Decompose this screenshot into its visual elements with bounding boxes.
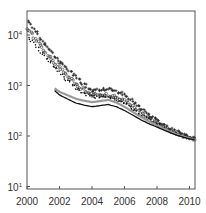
data-point <box>38 47 40 49</box>
data-point <box>159 124 161 126</box>
data-point <box>38 50 40 52</box>
data-point <box>126 103 128 105</box>
data-point <box>50 61 52 63</box>
data-point <box>115 89 118 92</box>
data-point <box>43 55 45 57</box>
data-point <box>58 70 60 72</box>
data-point <box>60 74 62 76</box>
data-point <box>42 53 44 55</box>
data-point <box>64 78 66 80</box>
data-point <box>103 95 105 97</box>
data-point <box>85 83 88 86</box>
data-point <box>132 100 135 103</box>
data-point <box>85 95 87 97</box>
data-point <box>56 63 59 66</box>
data-point <box>113 97 115 99</box>
data-point <box>50 62 52 64</box>
plot-series <box>26 20 196 142</box>
data-point <box>74 85 76 87</box>
data-point <box>99 96 101 98</box>
y-tick-label: 104 <box>8 30 23 41</box>
data-point <box>96 95 98 97</box>
data-point <box>138 105 141 108</box>
data-point <box>75 88 77 90</box>
data-point <box>134 109 136 111</box>
data-point <box>46 45 49 48</box>
data-point <box>94 97 96 99</box>
y-tick-label: 101 <box>8 182 23 193</box>
data-point <box>75 77 78 80</box>
data-point <box>32 40 34 42</box>
x-tick-label: 2002 <box>48 196 71 207</box>
data-point <box>78 89 80 91</box>
data-point <box>148 118 150 120</box>
data-point <box>72 85 74 87</box>
data-point <box>35 44 37 46</box>
chart: 104103102101 200020022004200620082010 <box>0 0 206 213</box>
data-point <box>62 74 64 76</box>
data-point <box>107 96 109 98</box>
x-tick-label: 2000 <box>16 196 39 207</box>
data-point <box>69 81 71 83</box>
data-point <box>33 41 35 43</box>
data-point <box>130 106 132 108</box>
data-point <box>92 95 94 97</box>
data-point <box>36 32 39 35</box>
data-point <box>42 52 44 54</box>
x-tick-label: 2010 <box>178 196 201 207</box>
data-point <box>55 68 57 70</box>
data-point <box>35 46 37 48</box>
data-point <box>64 80 66 82</box>
y-tick-label: 102 <box>8 131 23 142</box>
data-point <box>123 102 125 104</box>
data-point <box>137 104 140 107</box>
series-crosses <box>27 20 196 141</box>
data-point <box>114 99 116 101</box>
data-point <box>41 40 44 43</box>
data-point <box>32 37 35 40</box>
series-open-circles <box>26 28 196 142</box>
data-point <box>121 101 123 103</box>
data-point <box>83 82 86 85</box>
data-point <box>29 23 32 26</box>
data-point <box>128 105 130 107</box>
data-point <box>116 99 118 101</box>
data-point <box>63 76 65 78</box>
data-point <box>81 92 83 94</box>
data-point <box>56 70 58 72</box>
x-tick-label: 2006 <box>113 196 136 207</box>
data-point <box>28 37 30 39</box>
x-tick-label: 2008 <box>146 196 169 207</box>
data-point <box>74 74 77 77</box>
data-point <box>70 70 73 73</box>
y-tick-label: 103 <box>8 81 23 92</box>
data-point <box>105 96 107 98</box>
data-point <box>77 88 79 90</box>
data-point <box>53 66 55 68</box>
data-point <box>88 93 90 95</box>
data-point <box>30 41 32 43</box>
data-point <box>56 57 59 60</box>
data-point <box>89 95 91 97</box>
data-point <box>84 93 86 95</box>
data-point <box>110 97 112 99</box>
data-point <box>29 39 31 41</box>
data-point <box>143 115 145 117</box>
x-tick-label: 2004 <box>81 196 104 207</box>
data-point <box>150 119 152 121</box>
data-point <box>67 79 69 81</box>
data-point <box>47 58 49 60</box>
data-point <box>146 116 148 118</box>
data-point <box>102 87 105 90</box>
data-point <box>136 110 138 112</box>
data-point <box>39 52 41 54</box>
data-point <box>73 82 76 85</box>
data-point <box>93 95 95 97</box>
data-point <box>48 61 50 63</box>
data-point <box>142 112 145 115</box>
